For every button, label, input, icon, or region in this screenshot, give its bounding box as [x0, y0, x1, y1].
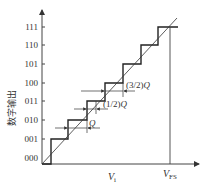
staircase-line: [42, 27, 178, 164]
adc-transfer-diagram: 000 001 010 011 100 101 110 111 数字输出 Q (…: [0, 0, 202, 187]
vfs-label: VFS: [163, 168, 177, 181]
half-q-label: (1/2)Q: [103, 99, 128, 109]
y-tick-000: 000: [25, 153, 39, 163]
three-half-q-label: (3/2)Q: [126, 80, 151, 90]
y-tick-101: 101: [25, 59, 39, 69]
y-tick-100: 100: [25, 78, 39, 88]
y-axis-title: 数字输出: [6, 90, 17, 126]
vi-label: Vi: [108, 171, 116, 184]
y-tick-111: 111: [25, 22, 38, 32]
y-tick-110: 110: [25, 40, 39, 50]
y-tick-001: 001: [25, 134, 39, 144]
y-tick-011: 011: [25, 96, 38, 106]
y-tick-010: 010: [25, 115, 39, 125]
q-label: Q: [89, 118, 96, 128]
